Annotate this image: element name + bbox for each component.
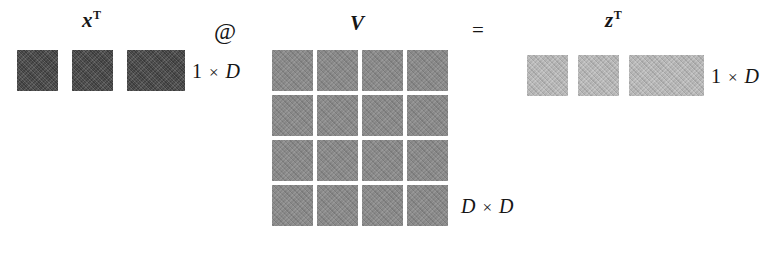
v-cell-2-0 xyxy=(272,140,313,181)
z-shape-label: 1 × D xyxy=(711,66,760,86)
equals-operator: = xyxy=(472,20,484,41)
z-transpose-label: zT xyxy=(605,9,622,31)
v-cell-1-2 xyxy=(362,95,403,136)
v-cell-1-3 xyxy=(407,95,448,136)
v-cell-2-2 xyxy=(362,140,403,181)
v-cell-0-3 xyxy=(407,50,448,91)
x-shape-label: 1 × D xyxy=(192,61,241,81)
matrix-multiplication-diagram: xT 1 × D @ V D × D = zT 1 × D xyxy=(0,0,779,253)
v-cell-3-0 xyxy=(272,185,313,226)
matmul-operator: @ xyxy=(214,19,236,43)
v-cell-1-1 xyxy=(317,95,358,136)
x-cell-0-1 xyxy=(72,50,113,91)
v-cell-0-0 xyxy=(272,50,313,91)
v-shape-label: D × D xyxy=(461,196,515,216)
z-cell-0-3 xyxy=(663,55,704,96)
v-cell-1-0 xyxy=(272,95,313,136)
v-cell-3-3 xyxy=(407,185,448,226)
z-cell-0-1 xyxy=(578,55,619,96)
v-cell-3-2 xyxy=(362,185,403,226)
v-label: V xyxy=(350,12,365,34)
v-cell-0-2 xyxy=(362,50,403,91)
v-cell-2-3 xyxy=(407,140,448,181)
v-cell-3-1 xyxy=(317,185,358,226)
x-transpose-label: xT xyxy=(82,9,101,31)
x-cell-0-3 xyxy=(144,50,185,91)
x-cell-0-0 xyxy=(17,50,58,91)
v-cell-0-1 xyxy=(317,50,358,91)
v-cell-2-1 xyxy=(317,140,358,181)
z-cell-0-0 xyxy=(527,55,568,96)
